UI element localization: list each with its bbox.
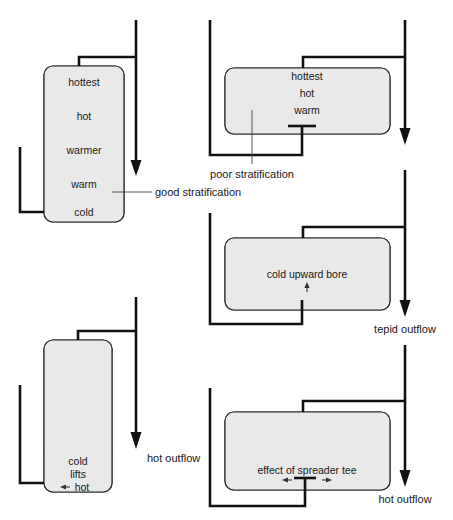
panel-cold-lifts-hot: cold lifts hot hot outflow xyxy=(20,297,200,493)
callout-poor-stratification: poor stratification xyxy=(210,168,294,180)
band-label-hot: hot xyxy=(77,110,92,122)
label-tepid-outflow: tepid outflow xyxy=(374,323,436,335)
label-lifts-word: lifts xyxy=(70,468,86,480)
band2-label-hot: hot xyxy=(300,87,315,99)
callout-effect-of-spreader-tee: effect of spreader tee xyxy=(257,464,356,476)
band-label-cold: cold xyxy=(74,206,93,218)
flow-arrow-down-panel5 xyxy=(400,470,411,487)
label-hot-outflow-left: hot outflow xyxy=(147,452,200,464)
panel-cold-upward-bore: cold upward bore tepid outflow xyxy=(210,170,436,335)
panel-spreader-tee: effect of spreader tee hot outflow xyxy=(210,345,432,506)
label-hot-word: hot xyxy=(75,481,90,493)
flow-arrow-down-panel3 xyxy=(400,300,411,317)
pipe-top-panel4 xyxy=(78,331,136,340)
band-label-hottest: hottest xyxy=(68,76,100,88)
band2-label-hottest: hottest xyxy=(291,70,323,82)
pipe-return-panel4 xyxy=(20,385,44,483)
stratification-diagram: hottest hot warmer warm cold good strati… xyxy=(0,0,453,520)
flow-arrow-down-panel4 xyxy=(131,432,142,449)
label-hot-outflow-right: hot outflow xyxy=(378,493,431,505)
pipe-top-panel5 xyxy=(303,401,405,412)
band-label-warmer: warmer xyxy=(65,144,102,156)
label-cold-word: cold xyxy=(68,455,87,467)
flow-arrow-down-panel1 xyxy=(131,160,142,176)
pipe-top-panel2 xyxy=(303,57,405,68)
flow-arrow-down-panel2 xyxy=(400,128,411,145)
pipe-top-panel3 xyxy=(303,227,405,238)
pipe-return-panel1 xyxy=(20,147,44,212)
band-label-warm: warm xyxy=(70,178,97,190)
diagram-canvas: hottest hot warmer warm cold good strati… xyxy=(0,0,453,520)
pipe-top-panel1 xyxy=(79,57,136,66)
band2-label-warm: warm xyxy=(293,104,320,116)
callout-good-stratification: good stratification xyxy=(155,186,241,198)
panel-good-stratification: hottest hot warmer warm cold good strati… xyxy=(20,20,241,222)
panel-poor-stratification: hottest hot warm poor stratification xyxy=(210,20,411,180)
callout-cold-upward-bore: cold upward bore xyxy=(267,268,348,280)
